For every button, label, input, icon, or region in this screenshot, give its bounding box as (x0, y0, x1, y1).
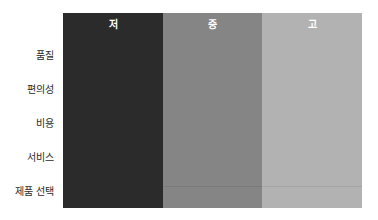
row-label-service: 서비스 (27, 152, 54, 164)
row-divider (163, 186, 262, 187)
column-header-low: 저 (109, 18, 118, 32)
row-label-cost: 비용 (36, 118, 54, 130)
column-low: 저 (63, 13, 163, 208)
row-divider (262, 186, 362, 187)
column-header-medium: 중 (208, 18, 217, 32)
row-labels: 품질 편의성 비용 서비스 제품 선택 (0, 0, 54, 220)
column-header-high: 고 (308, 18, 317, 32)
column-high: 고 (262, 13, 362, 208)
level-grid: 저 중 고 (63, 13, 362, 208)
row-label-convenience: 편의성 (27, 84, 54, 96)
row-label-quality: 품질 (36, 50, 54, 62)
row-label-product-choice: 제품 선택 (15, 186, 54, 198)
column-medium: 중 (163, 13, 262, 208)
